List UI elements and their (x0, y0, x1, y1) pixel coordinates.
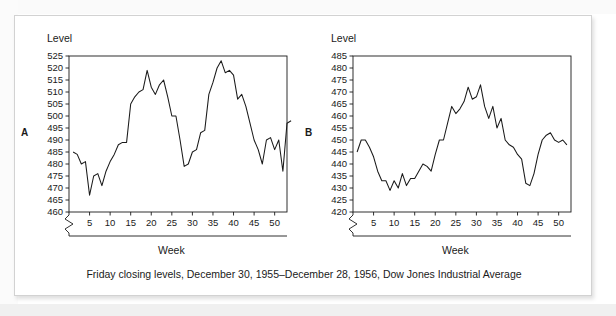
y-axis-break-icon (349, 212, 357, 236)
y-tick-label: 440 (331, 158, 347, 169)
y-tick-label: 435 (331, 170, 347, 181)
panel-letter-b: B (305, 127, 312, 138)
x-tick-label: 45 (249, 217, 260, 228)
x-tick-label: 20 (146, 217, 157, 228)
y-tick-label: 430 (331, 182, 347, 193)
y-tick-label: 490 (47, 134, 63, 145)
y-tick-label: 460 (47, 206, 63, 217)
y-tick-label: 425 (331, 194, 347, 205)
y-tick-label: 460 (331, 110, 347, 121)
x-tick-label: 50 (553, 217, 564, 228)
y-tick-label: 470 (47, 182, 63, 193)
x-tick-label: 35 (208, 217, 219, 228)
x-tick-label: 50 (269, 217, 280, 228)
x-axis-title-b: Week (442, 244, 469, 256)
y-tick-label: 510 (47, 86, 63, 97)
y-tick-label: 470 (331, 86, 347, 97)
figure-caption: Friday closing levels, December 30, 1955… (15, 268, 593, 280)
y-tick-label: 480 (47, 158, 63, 169)
x-tick-label: 5 (87, 217, 92, 228)
y-tick-label: 500 (47, 110, 63, 121)
x-tick-label: 40 (228, 217, 239, 228)
panel-letter-a: A (21, 127, 28, 138)
x-tick-label: 45 (533, 217, 544, 228)
data-series-line (357, 85, 567, 191)
x-tick-label: 10 (105, 217, 116, 228)
x-tick-label: 15 (409, 217, 420, 228)
figure-page: A Level Week 460465470475480485490495500… (0, 0, 616, 316)
y-tick-label: 475 (331, 74, 347, 85)
y-tick-label: 445 (331, 146, 347, 157)
x-tick-label: 40 (512, 217, 523, 228)
y-tick-label: 505 (47, 98, 63, 109)
page-shade-top (0, 0, 616, 14)
chart-panel-b: B Level Week 420425430435440445450455460… (291, 16, 580, 264)
x-axis-title-a: Week (158, 244, 185, 256)
x-tick-label: 30 (471, 217, 482, 228)
x-tick-label: 15 (125, 217, 136, 228)
y-tick-label: 525 (47, 50, 63, 61)
x-tick-label: 20 (430, 217, 441, 228)
line-chart-b: 4204254304354404454504554604654704754804… (291, 16, 580, 264)
x-tick-label: 35 (492, 217, 503, 228)
y-tick-label: 465 (47, 194, 63, 205)
y-tick-label: 455 (331, 122, 347, 133)
y-axis-title-a: Level (47, 32, 72, 44)
y-tick-label: 420 (331, 206, 347, 217)
y-tick-label: 465 (331, 98, 347, 109)
x-tick-label: 25 (451, 217, 462, 228)
y-axis-title-b: Level (331, 32, 356, 44)
y-tick-label: 485 (47, 146, 63, 157)
page-shade-bottom (0, 304, 616, 316)
y-tick-label: 515 (47, 74, 63, 85)
x-tick-label: 25 (167, 217, 178, 228)
y-tick-label: 475 (47, 170, 63, 181)
data-series-line (73, 61, 291, 195)
x-tick-label: 5 (371, 217, 376, 228)
x-tick-label: 10 (389, 217, 400, 228)
y-tick-label: 495 (47, 122, 63, 133)
y-tick-label: 480 (331, 62, 347, 73)
y-tick-label: 450 (331, 134, 347, 145)
y-axis-break-icon (65, 212, 73, 236)
x-tick-label: 30 (187, 217, 198, 228)
y-tick-label: 485 (331, 50, 347, 61)
y-tick-label: 520 (47, 62, 63, 73)
chart-panel-a: A Level Week 460465470475480485490495500… (15, 16, 304, 264)
line-chart-a: 4604654704754804854904955005055105155205… (15, 16, 304, 264)
figure-container: A Level Week 460465470475480485490495500… (14, 15, 592, 296)
